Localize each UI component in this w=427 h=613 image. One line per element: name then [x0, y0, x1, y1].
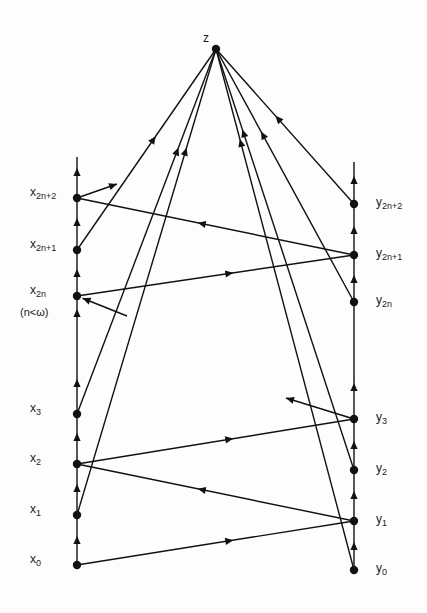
- label-x_1-subscript: 1: [36, 508, 41, 518]
- right-column-arrow-icon: [350, 275, 357, 283]
- right-column-arrow-icon: [350, 176, 357, 184]
- right-column-arrow-icon: [350, 491, 357, 499]
- label-y_2n: y2n: [376, 294, 392, 306]
- node-y_0: [350, 566, 358, 574]
- label-x_3: x3: [30, 402, 41, 414]
- edge-arrow-icon: [198, 221, 207, 228]
- edge-arrow-icon: [225, 538, 233, 545]
- right-column-arrow-icon: [350, 226, 357, 234]
- label-x_2n-subscript: 2n: [36, 289, 46, 299]
- node-y_2: [350, 466, 358, 474]
- label-y_2n+2-subscript: 2n+2: [382, 201, 402, 211]
- label-y_2n+1: y2n+1: [376, 247, 402, 259]
- stub-arrow-icon: [286, 397, 295, 404]
- label-n-less-than-omega: (n<ω): [20, 306, 48, 318]
- edge-x_2n-to-y_2n+1: [77, 255, 354, 296]
- node-x_2: [73, 460, 81, 468]
- right-column-arrow-icon: [350, 542, 357, 550]
- label-x_2n+1: x2n+1: [30, 238, 56, 250]
- label-x_2n+1-subscript: 2n+1: [36, 243, 56, 253]
- edge-y_1-to-x_2: [77, 464, 354, 521]
- edge-x_3-to-z: [77, 49, 216, 414]
- node-z: [212, 45, 220, 53]
- node-y_2n: [350, 298, 358, 306]
- label-y_1-subscript: 1: [382, 518, 387, 528]
- right-column-arrow-icon: [350, 441, 357, 449]
- stub-arrow-icon: [108, 183, 117, 190]
- label-y_3-subscript: 3: [382, 416, 387, 426]
- edge-x_2-to-y_3: [77, 419, 354, 464]
- edge-y_2n-to-z: [216, 49, 354, 302]
- node-y_2n+2: [350, 200, 358, 208]
- label-x_0: x0: [30, 553, 41, 565]
- edge-x_2n+1-to-z: [77, 49, 216, 250]
- node-x_2n+2: [73, 194, 81, 202]
- chain-diagram: [0, 0, 427, 613]
- left-column-arrow-icon: [73, 484, 80, 492]
- node-x_2n: [73, 292, 81, 300]
- edge-arrow-icon: [225, 436, 233, 443]
- stub-arrow: [286, 398, 354, 419]
- label-x_0-subscript: 0: [36, 558, 41, 568]
- label-y_0: y0: [376, 562, 387, 574]
- label-y_1: y1: [376, 513, 387, 525]
- edge-arrow-icon: [238, 139, 245, 148]
- label-y_2n+1-subscript: 2n+1: [382, 252, 402, 262]
- edge-arrow-icon: [241, 129, 248, 138]
- node-x_2n+1: [73, 246, 81, 254]
- label-y_2-subscript: 2: [382, 467, 387, 477]
- node-x_0: [73, 561, 81, 569]
- node-y_3: [350, 415, 358, 423]
- label-y_2n-subscript: 2n: [382, 299, 392, 309]
- label-y_0-subscript: 0: [382, 567, 387, 577]
- label-y_3: y3: [376, 411, 387, 423]
- node-x_1: [73, 511, 81, 519]
- left-column-arrow-icon: [73, 218, 80, 226]
- label-z: z: [203, 32, 209, 44]
- label-z-base: z: [203, 31, 209, 45]
- label-x_3-subscript: 3: [36, 407, 41, 417]
- left-column-arrow-icon: [73, 536, 80, 544]
- node-y_1: [350, 517, 358, 525]
- diagram-canvas: zx2n+2x2n+1x2nx3x2x1x0y2n+2y2n+1y2ny3y2y…: [0, 0, 427, 613]
- edge-y_2-to-z: [216, 49, 354, 470]
- edge-x_0-to-y_1: [77, 521, 354, 565]
- label-x_2n: x2n: [30, 284, 46, 296]
- label-x_2: x2: [30, 452, 41, 464]
- edge-arrow-icon: [181, 148, 188, 157]
- left-column-arrow-icon: [73, 269, 80, 277]
- right-column-arrow-icon: [350, 383, 357, 391]
- left-column-arrow-icon: [73, 168, 80, 176]
- label-y_2n+2: y2n+2: [376, 196, 402, 208]
- left-column-arrow-icon: [73, 433, 80, 441]
- node-x_3: [73, 410, 81, 418]
- label-x_1: x1: [30, 503, 41, 515]
- label-x_2n+2-subscript: 2n+2: [36, 191, 56, 201]
- edge-arrow-icon: [148, 136, 156, 145]
- label-x_2n+2: x2n+2: [30, 186, 56, 198]
- left-column-arrow-icon: [73, 309, 80, 317]
- label-y_2: y2: [376, 462, 387, 474]
- label-x_2-subscript: 2: [36, 457, 41, 467]
- left-column-arrow-icon: [73, 379, 80, 387]
- edge-arrow-icon: [225, 270, 233, 277]
- edge-arrow-icon: [172, 147, 179, 156]
- edge-arrow-icon: [198, 487, 207, 494]
- node-y_2n+1: [350, 251, 358, 259]
